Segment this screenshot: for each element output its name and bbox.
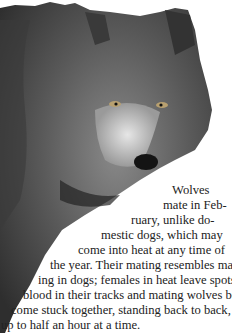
text-line: ing in dogs; females in heat leave spots… (38, 273, 232, 288)
article-text: Wolves mate in Feb- ruary, unlike do- me… (0, 0, 232, 333)
text-line: come into heat at any time of (78, 243, 225, 258)
text-line: up to half an hour at a time. (1, 318, 140, 333)
text-line: the year. Their mating resembles mat- (50, 258, 232, 273)
text-line: mate in Feb- (163, 198, 227, 213)
text-line: Wolves (172, 183, 209, 198)
text-line: come stuck together, standing back to ba… (11, 303, 232, 318)
text-line: blood in their tracks and mating wolves … (23, 288, 232, 303)
text-line: mestic dogs, which may (101, 228, 223, 243)
text-line: ruary, unlike do- (131, 213, 214, 228)
